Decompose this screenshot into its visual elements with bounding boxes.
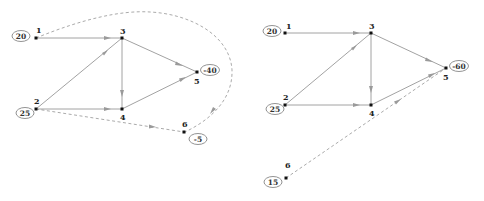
svg-text:5: 5 bbox=[194, 76, 200, 86]
right-arrow-3-5 bbox=[425, 58, 433, 63]
svg-text:-40: -40 bbox=[203, 66, 217, 75]
left-node-4: 4 bbox=[120, 108, 126, 123]
right-node-2: 2 25 bbox=[266, 92, 289, 115]
svg-text:4: 4 bbox=[369, 108, 375, 118]
left-arrow-2-6 bbox=[149, 125, 156, 129]
svg-text:1: 1 bbox=[36, 25, 42, 35]
right-arrow-3-4 bbox=[369, 86, 373, 93]
svg-text:15: 15 bbox=[268, 178, 278, 187]
svg-text:5: 5 bbox=[443, 72, 449, 82]
right-arrow-2-4 bbox=[353, 103, 360, 107]
svg-text:3: 3 bbox=[120, 26, 126, 36]
right-edge-3-5 bbox=[371, 33, 446, 68]
left-node-2: 2 25 bbox=[16, 96, 40, 119]
left-arrow-3-5 bbox=[175, 62, 183, 67]
svg-text:-5: -5 bbox=[194, 135, 202, 144]
left-edge-2-6-dashed bbox=[36, 109, 184, 132]
svg-text:3: 3 bbox=[369, 21, 375, 31]
left-arrow-3-4 bbox=[120, 90, 124, 97]
svg-text:2: 2 bbox=[283, 92, 289, 102]
svg-text:-60: -60 bbox=[452, 62, 466, 71]
right-graph: 1 20 2 25 3 4 5 -60 6 15 bbox=[263, 21, 469, 188]
right-edge-2-3 bbox=[285, 33, 371, 105]
network-flow-diagram: 1 20 2 25 3 4 5 -40 6 -5 bbox=[0, 0, 484, 201]
right-edge-4-5 bbox=[371, 68, 446, 105]
svg-text:2: 2 bbox=[34, 96, 40, 106]
left-graph: 1 20 2 25 3 4 5 -40 6 -5 bbox=[12, 12, 232, 145]
svg-text:20: 20 bbox=[16, 32, 26, 41]
svg-text:1: 1 bbox=[286, 21, 292, 31]
left-node-1: 1 20 bbox=[12, 25, 42, 42]
right-arrow-1-3 bbox=[353, 31, 360, 35]
left-edge-2-3 bbox=[36, 38, 122, 109]
right-arrow-4-5 bbox=[428, 73, 435, 78]
right-arrow-6-5 bbox=[394, 99, 401, 105]
left-arrow-1-3 bbox=[104, 36, 111, 40]
svg-text:20: 20 bbox=[267, 27, 277, 36]
right-node-5: 5 -60 bbox=[443, 61, 469, 83]
left-arrow-2-3 bbox=[102, 50, 108, 56]
right-node-1: 1 20 bbox=[263, 21, 292, 37]
left-arrow-2-4 bbox=[104, 107, 111, 111]
right-node-3: 3 bbox=[369, 21, 375, 35]
svg-text:4: 4 bbox=[120, 112, 126, 122]
left-edge-3-5 bbox=[122, 38, 197, 72]
left-node-5: 5 -40 bbox=[194, 65, 220, 87]
right-node-6: 6 15 bbox=[264, 160, 291, 188]
svg-text:25: 25 bbox=[270, 105, 280, 114]
left-arrow-4-5 bbox=[179, 77, 186, 82]
right-arrow-2-3 bbox=[351, 45, 357, 51]
svg-text:6: 6 bbox=[285, 160, 291, 170]
svg-text:25: 25 bbox=[20, 109, 30, 118]
left-node-3: 3 bbox=[120, 26, 126, 40]
right-node-4: 4 bbox=[369, 104, 375, 119]
svg-text:6: 6 bbox=[182, 119, 188, 129]
left-edge-4-5 bbox=[122, 72, 197, 109]
